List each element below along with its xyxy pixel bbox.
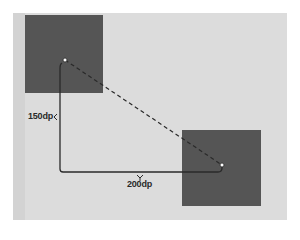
direct-dashed-path xyxy=(65,60,222,165)
start-point-icon xyxy=(63,58,67,62)
horizontal-distance-label: 200dp xyxy=(127,179,152,189)
vertical-distance-label: 150dp xyxy=(28,111,53,121)
end-point-icon xyxy=(220,163,224,167)
axis-solid-path xyxy=(60,63,222,172)
vertical-brace-icon xyxy=(54,114,57,120)
